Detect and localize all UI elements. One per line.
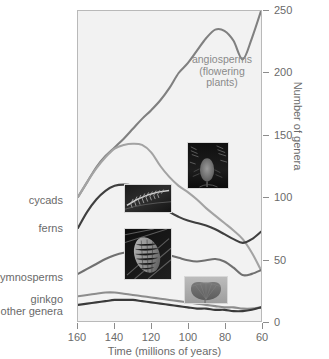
x-tick-mark [225,323,226,329]
x-axis-title: Time (millions of years) [0,345,329,357]
y-tick-mark [263,135,269,136]
x-tick-mark [77,323,78,329]
y-tick-label: 0 [274,316,280,328]
y-tick-label: 50 [274,254,286,266]
x-tick-mark [188,323,189,329]
y-tick-label: 200 [274,66,292,78]
plant-diversity-chart-figure: angiosperms (flowering plants) cycads fe… [0,0,329,359]
x-tick-mark [151,323,152,329]
x-tick-label: 120 [142,331,160,343]
x-tick-label: 80 [219,331,231,343]
y-tick-mark [263,10,269,11]
y-tick-label: 150 [274,129,292,141]
series-label-cycads: cycads [29,194,63,206]
x-tick-label: 140 [105,331,123,343]
x-tick-mark [114,323,115,329]
series-label-gymnosperms: gymnosperms [0,271,63,283]
y-tick-label: 100 [274,191,292,203]
y-tick-label: 250 [274,4,292,16]
series-label-group: cycads ferns gymnosperms ginkgo other ge… [0,0,329,359]
y-tick-mark [263,322,269,323]
y-tick-mark [263,197,269,198]
series-label-other-genera: other genera [1,305,63,317]
x-tick-mark [262,323,263,329]
y-axis-title: Number of genera [292,66,304,186]
x-tick-label: 100 [179,331,197,343]
series-label-ferns: ferns [39,222,63,234]
x-tick-label: 160 [68,331,86,343]
series-label-ginkgo: ginkgo [31,293,63,305]
y-tick-mark [263,72,269,73]
x-tick-label: 60 [256,331,268,343]
y-tick-mark [263,260,269,261]
